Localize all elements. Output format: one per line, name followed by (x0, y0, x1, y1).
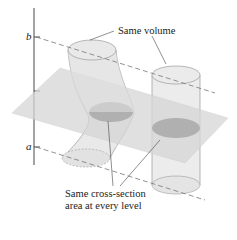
slanted-top-ellipse (68, 40, 116, 60)
slanted-bottom-ellipse (62, 149, 110, 167)
leader-volume-left (90, 31, 114, 40)
straight-cross-section (152, 118, 200, 138)
axis-label-a: a (26, 141, 32, 152)
leader-volume-right (152, 36, 166, 64)
callout-same-volume: Same volume (118, 25, 175, 36)
straight-top-ellipse (152, 66, 200, 84)
axis-label-b: b (26, 31, 32, 42)
callout-cross-section-line2: area at every level (65, 200, 142, 211)
callout-cross-section-line1: Same cross-section (65, 188, 146, 199)
